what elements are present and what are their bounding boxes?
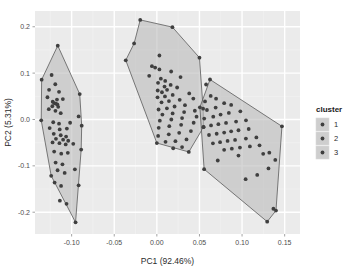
data-point-cluster-3 [202,117,206,121]
data-point-cluster-2 [198,56,202,60]
data-point-cluster-1 [40,78,44,82]
data-point-cluster-1 [47,107,51,111]
data-point-cluster-3 [209,94,213,98]
data-point-cluster-2 [164,140,168,144]
data-point-cluster-2 [167,132,171,136]
data-point-cluster-2 [160,90,164,94]
data-point-cluster-2 [167,99,171,103]
data-point-cluster-2 [163,95,167,99]
data-point-cluster-2 [185,138,189,142]
data-point-cluster-1 [58,128,62,132]
data-point-cluster-1 [51,120,55,124]
x-axis-tick-label: 0.05 [193,239,207,246]
data-point-cluster-3 [273,158,277,162]
data-point-cluster-2 [171,146,175,150]
data-point-cluster-3 [267,151,271,155]
data-point-cluster-2 [167,124,171,128]
data-point-cluster-2 [182,110,186,114]
data-point-cluster-3 [244,177,248,181]
legend-key-point-icon [321,151,325,155]
x-axis: -0.10-0.050.000.050.100.15 [64,234,292,246]
data-point-cluster-2 [187,150,191,154]
data-point-cluster-1 [56,168,60,172]
data-point-cluster-2 [180,116,184,120]
pca-cluster-plot: -0.10-0.050.000.050.100.15 -0.2-0.10.00.… [0,0,362,272]
data-point-cluster-2 [158,68,162,72]
data-point-cluster-1 [54,161,58,165]
data-point-cluster-3 [272,207,276,211]
data-point-cluster-1 [68,121,72,125]
data-point-cluster-3 [202,167,206,171]
data-point-cluster-1 [59,133,63,137]
data-point-cluster-1 [54,109,58,113]
legend[interactable]: cluster123 [316,105,342,159]
data-point-cluster-1 [71,142,75,146]
data-point-cluster-1 [39,118,43,122]
data-point-cluster-3 [211,141,215,145]
data-point-cluster-2 [173,105,177,109]
data-point-cluster-2 [165,88,169,92]
data-point-cluster-3 [230,147,234,151]
data-point-cluster-2 [169,70,173,74]
legend-item-2[interactable]: 2 [316,132,338,145]
y-axis-tick-label: 0.2 [20,23,30,30]
data-point-cluster-1 [58,199,62,203]
data-point-cluster-3 [254,136,258,140]
data-point-cluster-1 [78,92,82,96]
data-point-cluster-2 [160,100,164,104]
data-point-cluster-1 [58,141,62,145]
data-point-cluster-2 [177,131,181,135]
data-point-cluster-1 [64,135,68,139]
data-point-cluster-2 [147,74,151,78]
data-point-cluster-1 [51,141,55,145]
legend-item-label: 1 [334,120,338,129]
data-point-cluster-3 [204,83,208,87]
data-point-cluster-1 [66,139,70,143]
x-axis-tick-label: 0.10 [235,239,249,246]
data-point-cluster-2 [195,115,199,119]
data-point-cluster-2 [175,86,179,90]
data-point-cluster-2 [193,109,197,113]
data-point-cluster-2 [157,108,161,112]
legend-item-3[interactable]: 3 [316,146,338,159]
data-point-cluster-3 [258,143,262,147]
data-point-cluster-3 [234,120,238,124]
data-point-cluster-2 [192,121,196,125]
data-point-cluster-3 [219,113,223,117]
data-point-cluster-2 [156,81,160,85]
data-point-cluster-3 [224,121,228,125]
data-point-cluster-1 [61,97,65,101]
data-point-cluster-2 [158,119,162,123]
data-point-cluster-3 [222,101,226,105]
data-point-cluster-3 [215,132,219,136]
data-point-cluster-2 [156,95,160,99]
data-point-cluster-1 [46,95,50,99]
data-point-cluster-3 [238,109,242,113]
data-point-cluster-2 [171,112,175,116]
data-point-cluster-1 [59,152,63,156]
x-axis-tick-label: -0.10 [64,239,80,246]
data-point-cluster-2 [124,58,128,62]
data-point-cluster-2 [174,139,178,143]
data-point-cluster-2 [171,25,175,29]
y-axis-tick-label: 0.1 [20,70,30,77]
data-point-cluster-2 [156,134,160,138]
data-point-cluster-3 [222,148,226,152]
data-point-cluster-1 [52,132,56,136]
data-point-cluster-1 [65,127,69,131]
legend-item-1[interactable]: 1 [316,118,338,131]
data-point-cluster-1 [56,105,60,109]
data-point-cluster-2 [201,107,205,111]
data-point-cluster-3 [237,128,241,132]
data-point-cluster-2 [180,145,184,149]
y-axis: -0.2-0.10.00.10.2 [18,23,35,215]
chart-canvas: -0.10-0.050.000.050.100.15 -0.2-0.10.00.… [0,0,362,272]
data-point-cluster-1 [49,174,53,178]
data-point-cluster-1 [57,122,61,126]
data-point-cluster-1 [63,171,67,175]
data-point-cluster-3 [211,115,215,119]
data-point-cluster-2 [150,64,154,68]
data-point-cluster-3 [238,146,242,150]
y-axis-tick-label: 0.0 [20,116,30,123]
legend-key-point-icon [321,123,325,127]
